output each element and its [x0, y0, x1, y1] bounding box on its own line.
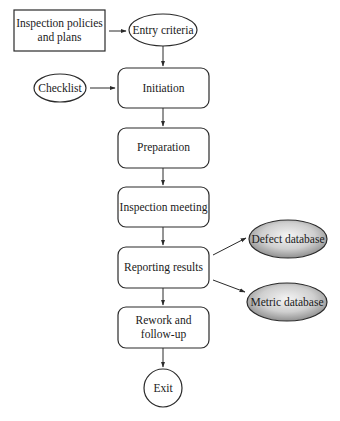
- node-defect-database: Defect database: [249, 220, 327, 258]
- node-reporting-results-label: Reporting results: [124, 261, 203, 274]
- node-defect-database-label: Defect database: [251, 233, 324, 245]
- node-checklist: Checklist: [34, 74, 86, 102]
- node-rework-line2: follow-up: [141, 328, 187, 341]
- node-entry-criteria: Entry criteria: [129, 14, 197, 46]
- node-rework-follow-up: Rework and follow-up: [118, 307, 209, 348]
- edge-reporting-to-defect-db: [213, 238, 246, 255]
- node-entry-criteria-label: Entry criteria: [133, 24, 194, 37]
- node-preparation-label: Preparation: [137, 141, 190, 154]
- edge-reporting-to-metric-db: [213, 280, 245, 292]
- node-metric-database: Metric database: [247, 283, 327, 321]
- node-inspection-policies-line1: Inspection policies: [16, 17, 103, 30]
- node-exit: Exit: [144, 369, 182, 407]
- node-initiation-label: Initiation: [142, 82, 184, 94]
- node-preparation: Preparation: [118, 128, 209, 168]
- node-inspection-meeting-label: Inspection meeting: [120, 201, 208, 214]
- node-initiation: Initiation: [118, 68, 209, 108]
- node-exit-label: Exit: [153, 382, 173, 394]
- node-metric-database-label: Metric database: [250, 296, 323, 308]
- node-checklist-label: Checklist: [38, 82, 82, 94]
- node-inspection-meeting: Inspection meeting: [118, 187, 209, 227]
- node-reporting-results: Reporting results: [118, 247, 209, 288]
- inspection-process-flowchart: Inspection policies and plans Entry crit…: [0, 0, 340, 421]
- node-inspection-policies-line2: and plans: [38, 31, 82, 44]
- node-rework-line1: Rework and: [136, 314, 192, 326]
- node-inspection-policies: Inspection policies and plans: [14, 10, 105, 51]
